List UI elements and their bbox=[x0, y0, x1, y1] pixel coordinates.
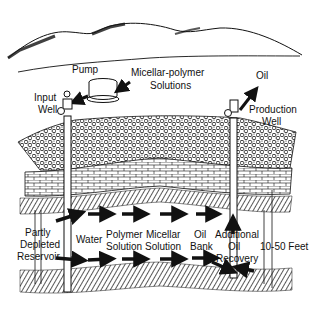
thickness-label: 10-50 Feet bbox=[260, 241, 308, 252]
pump-tank bbox=[87, 79, 119, 103]
production-well-label-1: Production bbox=[249, 104, 297, 115]
input-well-label-1: Input bbox=[34, 92, 56, 103]
solution-arrow-icon bbox=[120, 82, 130, 89]
polymer-label-1: Polymer bbox=[106, 229, 143, 240]
eor-diagram: Pump Micellar-polymer Solutions Input We… bbox=[0, 0, 317, 314]
pump-label: Pump bbox=[72, 64, 98, 75]
oil-bank-label-1: Oil bbox=[194, 229, 206, 240]
micellar-polymer-label-1: Micellar-polymer bbox=[131, 67, 204, 78]
polymer-label-2: Solution bbox=[106, 241, 142, 252]
input-well-label-2: Well bbox=[38, 104, 57, 115]
additional-oil-label-3: Recovery bbox=[216, 253, 258, 264]
micellar-label-2: Solution bbox=[145, 241, 181, 252]
mountains bbox=[8, 23, 302, 72]
additional-oil-label-2: Oil bbox=[228, 241, 240, 252]
partly-depleted-label-3: Reservoir bbox=[17, 251, 60, 262]
partly-depleted-label-2: Depleted bbox=[20, 239, 60, 250]
micellar-polymer-label-2: Solutions bbox=[150, 80, 191, 91]
production-well-label-2: Well bbox=[262, 116, 281, 127]
oil-bank-label-2: Bank bbox=[190, 241, 213, 252]
micellar-label-1: Micellar bbox=[146, 229, 180, 240]
water-label: Water bbox=[76, 234, 102, 245]
additional-oil-label-1: Additional bbox=[215, 229, 259, 240]
strata bbox=[18, 116, 296, 293]
diagram-artwork bbox=[0, 0, 317, 314]
injection-arrow-icon bbox=[76, 96, 88, 101]
partly-depleted-label-1: Partly bbox=[25, 227, 51, 238]
oil-label: Oil bbox=[256, 70, 268, 81]
